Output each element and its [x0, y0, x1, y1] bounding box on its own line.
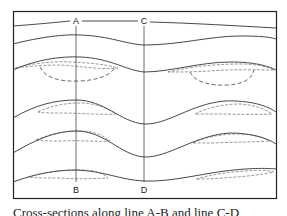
diagram-frame [14, 12, 277, 199]
lens-deposit-2 [168, 64, 274, 72]
layer-line-2 [13, 35, 276, 45]
label-b: B [73, 185, 79, 195]
label-a: A [73, 16, 79, 26]
dashed-outline-1 [40, 67, 115, 81]
lens-deposit-8 [196, 170, 274, 179]
lens-deposit-1 [15, 62, 118, 69]
cross-section-diagram: A C B D [0, 0, 287, 200]
label-d: D [141, 185, 148, 195]
layer-line-4 [13, 100, 276, 124]
dashed-outline-2 [190, 70, 254, 85]
figure-caption: Cross-sections along line A-B and line C… [13, 206, 239, 216]
lens-deposit-4 [195, 104, 272, 114]
label-c: C [141, 16, 148, 26]
layer-line-5 [13, 131, 276, 157]
lens-deposit-6 [193, 134, 270, 143]
layer-line-6 [13, 168, 276, 182]
lens-deposit-3 [38, 103, 116, 114]
